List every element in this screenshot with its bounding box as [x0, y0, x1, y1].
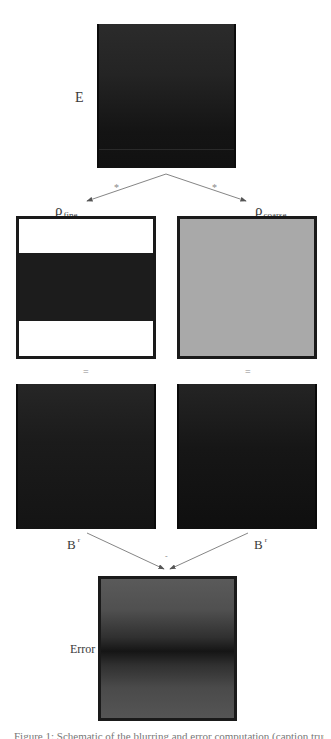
arrow-coarse-to-error [170, 533, 248, 569]
b-symbol: B [254, 537, 263, 552]
result-fine-label: Br [67, 537, 80, 551]
equals-operator-left: = [83, 367, 89, 377]
result-coarse-label: Br [254, 537, 267, 551]
b-symbol: B [67, 537, 76, 552]
result-coarse-panel [177, 384, 317, 529]
error-label: Error [70, 643, 95, 655]
kernel-fine-panel [16, 216, 156, 359]
arrow-e-to-coarse [166, 174, 246, 201]
figure-caption: Figure 1: Schematic of the blurring and … [14, 731, 324, 739]
result-fine-panel [16, 384, 156, 529]
convolve-operator-left: * [114, 183, 119, 193]
kernel-fine-dark-band [19, 253, 153, 321]
input-e-panel [97, 24, 236, 168]
b-superscript: r [265, 536, 267, 544]
b-superscript: r [78, 536, 80, 544]
arrow-fine-to-error [87, 533, 164, 569]
arrow-e-to-fine [87, 174, 166, 201]
equals-operator-right: = [245, 367, 251, 377]
input-label: E [75, 91, 84, 105]
error-panel [98, 576, 237, 721]
subtract-operator: - [165, 553, 168, 561]
kernel-coarse-panel [177, 216, 317, 359]
convolve-operator-right: * [212, 183, 217, 193]
